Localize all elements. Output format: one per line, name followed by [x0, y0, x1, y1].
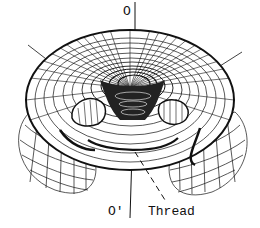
tilt-line-right — [220, 52, 242, 66]
label-axis-top: O — [123, 5, 131, 18]
label-thread: Thread — [148, 205, 195, 218]
label-axis-bottom: O' — [108, 205, 124, 218]
torus-diagram: O O' Thread — [0, 0, 260, 228]
torus-wireframe-graphic — [0, 0, 260, 228]
